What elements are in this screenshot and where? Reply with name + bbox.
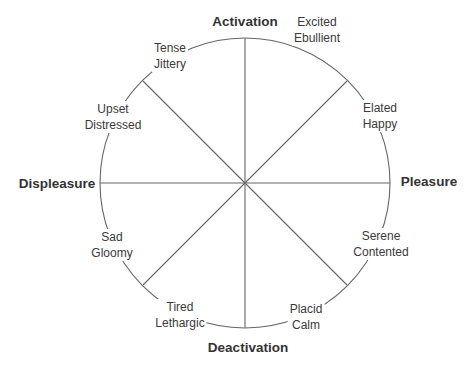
state-line1: Serene (353, 228, 408, 244)
state-line2: Calm (290, 317, 323, 333)
state-line1: Sad (91, 229, 132, 245)
axis-label-right: Pleasure (401, 174, 457, 189)
state-line2: Distressed (85, 117, 142, 133)
state-line1: Placid (290, 301, 323, 317)
state-label-sad: Sad Gloomy (89, 229, 134, 261)
state-line1: Excited (294, 14, 340, 30)
state-label-elated: Elated Happy (361, 100, 400, 132)
state-line2: Contented (353, 244, 408, 260)
state-line2: Gloomy (91, 245, 132, 261)
state-line2: Jittery (154, 56, 186, 72)
state-label-placid: Placid Calm (288, 301, 325, 333)
state-label-tense: Tense Jittery (152, 40, 188, 72)
axis-label-left: Displeasure (19, 176, 96, 191)
state-line1: Elated (363, 100, 398, 116)
state-line1: Upset (85, 101, 142, 117)
state-line2: Happy (363, 116, 398, 132)
state-line1: Tired (155, 299, 204, 315)
state-line1: Tense (154, 40, 186, 56)
state-line2: Ebullient (294, 30, 340, 46)
axis-label-bottom: Deactivation (208, 340, 288, 355)
state-label-excited: Excited Ebullient (292, 14, 342, 46)
axis-label-top: Activation (212, 14, 277, 29)
state-label-serene: Serene Contented (351, 228, 410, 260)
state-line2: Lethargic (155, 315, 204, 331)
state-label-upset: Upset Distressed (83, 101, 144, 133)
state-label-tired: Tired Lethargic (153, 299, 206, 331)
